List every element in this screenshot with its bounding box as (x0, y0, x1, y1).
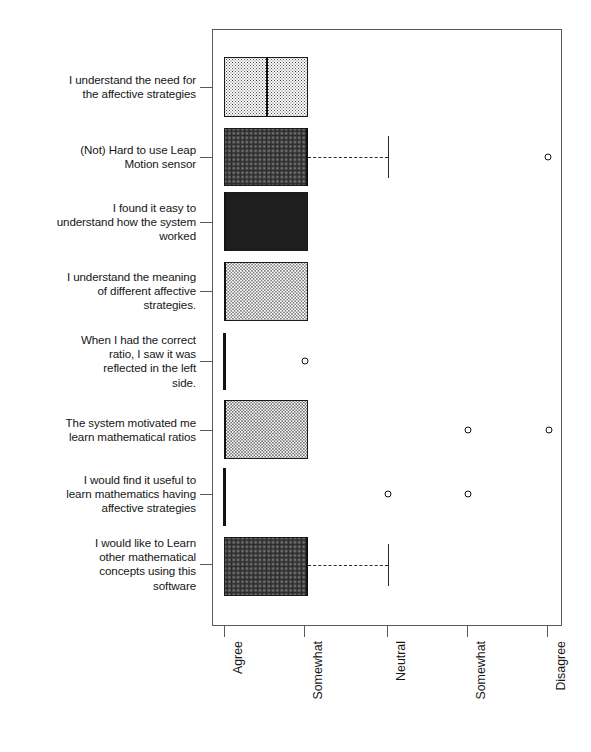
y-axis-tick-6 (200, 494, 212, 495)
y-axis-label-3: I understand the meaning of different af… (0, 270, 196, 313)
y-axis-tick-3 (200, 291, 212, 292)
x-axis-label-3: Somewhat (474, 641, 488, 700)
y-axis-label-7: I would like to Learn other mathematical… (0, 536, 196, 593)
y-axis-tick-0 (200, 87, 212, 88)
y-axis-label-6: I would find it useful to learn mathemat… (0, 473, 196, 516)
y-axis-label-1: (Not) Hard to use Leap Motion sensor (0, 143, 196, 171)
x-axis-label-4: Disagree (554, 641, 568, 691)
y-axis-label-2: I found it easy to understand how the sy… (0, 201, 196, 244)
y-axis-labels: I understand the need for the affective … (0, 29, 196, 626)
x-axis-tick-3 (467, 626, 468, 637)
y-axis-label-0: I understand the need for the affective … (0, 73, 196, 101)
y-axis-tick-2 (200, 222, 212, 223)
y-axis-label-4: When I had the correct ratio, I saw it w… (0, 333, 196, 390)
x-axis-label-0: Agree (231, 641, 245, 674)
x-axis-label-1: Somewhat (311, 641, 325, 700)
x-axis-tick-2 (387, 626, 388, 637)
y-axis-tick-7 (200, 564, 212, 565)
x-axis-label-2: Neutral (394, 641, 408, 681)
y-axis-tick-4 (200, 361, 212, 362)
plot-area-frame (212, 29, 562, 626)
x-axis-tick-4 (547, 626, 548, 637)
y-axis-tick-1 (200, 157, 212, 158)
x-axis-tick-1 (304, 626, 305, 637)
y-axis-label-5: The system motivated me learn mathematic… (0, 416, 196, 444)
x-axis-tick-0 (224, 626, 225, 637)
boxplot-figure: I understand the need for the affective … (0, 0, 591, 752)
y-axis-tick-5 (200, 430, 212, 431)
